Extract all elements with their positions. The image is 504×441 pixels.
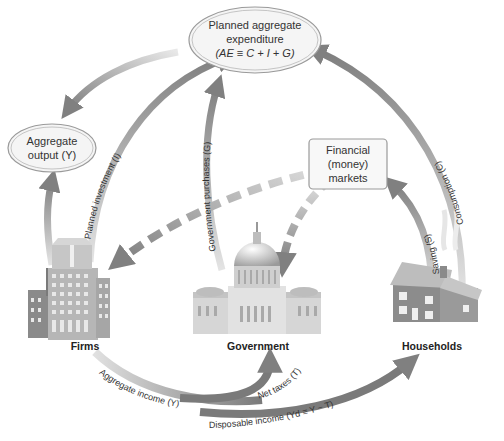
government-label: Government bbox=[218, 340, 298, 352]
net-taxes-arrow bbox=[180, 360, 270, 399]
ae-line1: Planned aggregate bbox=[190, 18, 320, 32]
disposable-income-arrow bbox=[200, 362, 410, 414]
government-purchases-flow-label: Government purchases (G) bbox=[201, 141, 218, 252]
financial-line1: Financial bbox=[309, 143, 387, 157]
circular-flow-diagram: Consumption (C) Saving (S) Planned inves… bbox=[0, 0, 504, 441]
firms-building-icon bbox=[28, 238, 110, 340]
financial-markets-node-text: Financial (money) markets bbox=[309, 143, 387, 185]
ae-line2: expenditure bbox=[190, 32, 320, 46]
planned-investment-flow-label: Planned investment (I) bbox=[83, 151, 123, 240]
aggregate-output-node-text: Aggregate output (Y) bbox=[10, 134, 94, 162]
firms-to-output-arrow bbox=[48, 180, 53, 265]
ae-node-text: Planned aggregate expenditure (AE ≡ C + … bbox=[190, 18, 320, 60]
aggregate-output-line1: Aggregate bbox=[10, 134, 94, 148]
ae-line3: (AE ≡ C + I + G) bbox=[190, 46, 320, 60]
financial-to-firms-dashed-arrow bbox=[118, 170, 325, 262]
financial-line2: (money) bbox=[309, 157, 387, 171]
financial-line3: markets bbox=[309, 171, 387, 185]
consumption-flow-label: Consumption (C) bbox=[432, 160, 465, 226]
firms-label: Firms bbox=[50, 340, 120, 352]
households-label: Households bbox=[390, 340, 474, 352]
financial-to-government-dashed-arrow bbox=[283, 180, 330, 265]
aggregate-output-line2: output (Y) bbox=[10, 148, 94, 162]
